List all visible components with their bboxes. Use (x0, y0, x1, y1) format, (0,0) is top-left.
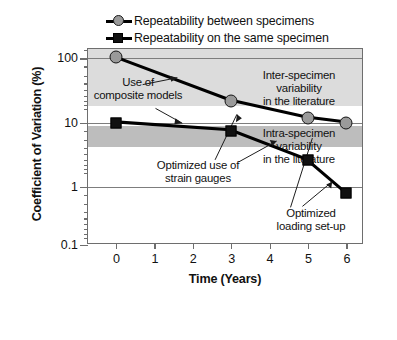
x-axis-title: Time (Years) (87, 272, 363, 286)
chart-legend: Repeatability between specimens Repeatab… (104, 12, 384, 46)
x-tick-1 (154, 243, 155, 249)
data-point-square-3 (226, 125, 237, 136)
x-tick-label-6: 6 (343, 252, 350, 266)
x-tick-3 (231, 243, 232, 249)
annotation-loading-setup: Optimized loading set-up (264, 207, 358, 233)
x-tick-5 (308, 243, 309, 249)
plot-area: 100 10 1 0.1 0 1 2 3 4 5 6 Inter-specime… (87, 48, 363, 244)
chart-figure: Repeatability between specimens Repeatab… (0, 0, 397, 340)
arrow-head-intra (236, 114, 242, 122)
x-tick-6 (346, 243, 347, 249)
y-tick-10 (80, 123, 88, 124)
x-tick-2 (193, 243, 194, 249)
data-point-square-0 (110, 117, 121, 128)
y-tick-label-100: 100 (57, 51, 78, 65)
legend-label-between-specimens: Repeatability between specimens (134, 14, 314, 28)
x-tick-label-0: 0 (113, 252, 120, 266)
y-tick-label-1: 1 (71, 180, 78, 194)
x-tick-label-2: 2 (190, 252, 197, 266)
arrow-head-loading (326, 182, 332, 189)
x-tick-0 (116, 243, 117, 249)
x-tick-label-5: 5 (305, 252, 312, 266)
y-tick-1 (80, 187, 88, 188)
y-axis-title: Coefficient of Variation (%) (30, 44, 44, 244)
data-point-square-5 (302, 155, 313, 166)
arrow-head-composite-2 (174, 118, 182, 124)
data-point-square-6 (341, 188, 352, 199)
circle-marker-icon (104, 12, 134, 29)
data-point-circle-5 (301, 111, 314, 124)
y-tick-0.1 (80, 245, 88, 246)
square-marker-icon (104, 29, 134, 46)
y-tick-label-10: 10 (64, 116, 78, 130)
x-tick-label-1: 1 (151, 252, 158, 266)
legend-label-same-specimen: Repeatability on the same specimen (134, 31, 329, 45)
x-tick-label-4: 4 (267, 252, 274, 266)
data-point-circle-0 (109, 51, 122, 64)
x-tick-4 (270, 243, 271, 249)
y-tick-label-0.1: 0.1 (61, 238, 78, 252)
legend-item-same-specimen: Repeatability on the same specimen (104, 29, 384, 46)
x-tick-label-3: 3 (228, 252, 235, 266)
y-tick-100 (80, 58, 88, 59)
data-point-circle-6 (340, 116, 353, 129)
annotation-composite-models: Use of composite models (83, 76, 193, 102)
annotation-strain-gauges: Optimized use of strain gauges (146, 159, 250, 185)
data-point-circle-3 (225, 94, 238, 107)
arrow-head-strain (270, 140, 277, 146)
legend-item-between-specimens: Repeatability between specimens (104, 12, 384, 29)
